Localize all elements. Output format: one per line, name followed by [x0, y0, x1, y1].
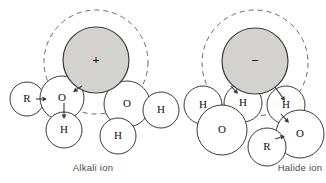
- figure-canvas: ROHOHH+ HHHOOR− Alkali ion Halide ion: [0, 0, 326, 183]
- atom-label-halide-r-5: R: [263, 140, 271, 152]
- panel-alkali-ion: ROHOHH+: [10, 10, 179, 154]
- ion-charge-label-alkali: +: [92, 52, 99, 67]
- ion-charge-label-halide: −: [251, 53, 258, 68]
- ion-hydration-diagram: ROHOHH+ HHHOOR−: [0, 0, 326, 183]
- atom-label-alkali-r-0: R: [23, 92, 31, 104]
- atom-label-alkali-o-3: O: [123, 97, 131, 109]
- caption-halide-ion: Halide ion: [150, 162, 326, 173]
- atom-label-alkali-h-2: H: [60, 123, 68, 135]
- atom-label-alkali-h-4: H: [157, 103, 165, 115]
- atom-label-halide-o-4: O: [296, 127, 304, 139]
- atom-label-alkali-o-1: O: [58, 91, 66, 103]
- atom-label-halide-h-1: H: [239, 96, 247, 108]
- atom-label-halide-o-3: O: [218, 123, 226, 135]
- panel-halide-ion: HHHOOR−: [184, 10, 324, 166]
- atom-label-alkali-h-5: H: [114, 129, 122, 141]
- atom-label-halide-h-0: H: [199, 98, 207, 110]
